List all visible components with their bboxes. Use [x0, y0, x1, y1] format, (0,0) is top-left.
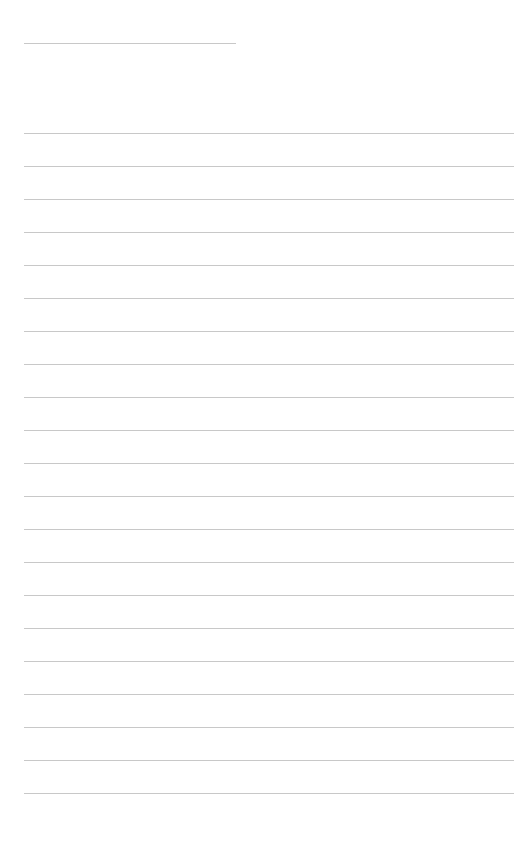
ruled-line — [24, 397, 514, 398]
ruled-line — [24, 496, 514, 497]
ruled-line — [24, 529, 514, 530]
ruled-line — [24, 793, 514, 794]
title-write-line — [24, 43, 236, 44]
ruled-line — [24, 199, 514, 200]
ruled-line — [24, 463, 514, 464]
ruled-line — [24, 430, 514, 431]
ruled-line — [24, 661, 514, 662]
ruled-line — [24, 628, 514, 629]
ruled-line — [24, 364, 514, 365]
ruled-line — [24, 265, 514, 266]
ruled-line — [24, 760, 514, 761]
ruled-line — [24, 595, 514, 596]
ruled-line — [24, 694, 514, 695]
ruled-line — [24, 166, 514, 167]
ruled-line — [24, 727, 514, 728]
ruled-line — [24, 133, 514, 134]
ruled-line — [24, 298, 514, 299]
ruled-line — [24, 331, 514, 332]
ruled-line — [24, 232, 514, 233]
ruled-line — [24, 562, 514, 563]
lined-page — [0, 0, 522, 845]
